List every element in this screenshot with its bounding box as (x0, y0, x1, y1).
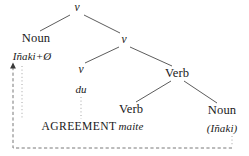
node-verb-leaf: Verb (119, 103, 143, 116)
node-little-v-word: du (75, 84, 86, 95)
node-noun-object: Noun (208, 104, 236, 117)
branch-verb-to-noun-object (184, 81, 217, 103)
node-root-v: v (74, 2, 79, 14)
branch-inner-v-to-little-v (85, 47, 119, 63)
node-subject-word: Iñaki+Ø (13, 51, 52, 62)
syntax-tree-diagram: v Noun Iñaki+Ø v v du Verb Verb maite No… (0, 0, 249, 156)
node-verb-mid: Verb (165, 67, 189, 80)
branch-verb-to-verb-leaf (136, 81, 171, 102)
branch-root-to-noun (40, 15, 70, 31)
agreement-arrowhead-icon (10, 63, 16, 69)
node-noun-subject: Noun (22, 32, 50, 45)
node-object-word: (Iñaki) (207, 123, 238, 134)
node-inner-v: v (121, 34, 126, 46)
agreement-label: AGREEMENT (41, 121, 116, 133)
node-verb-leaf-word: maite (119, 121, 144, 132)
branch-root-to-inner-v (84, 15, 120, 33)
branch-inner-v-to-verb (130, 47, 172, 66)
node-little-v: v (78, 64, 83, 76)
